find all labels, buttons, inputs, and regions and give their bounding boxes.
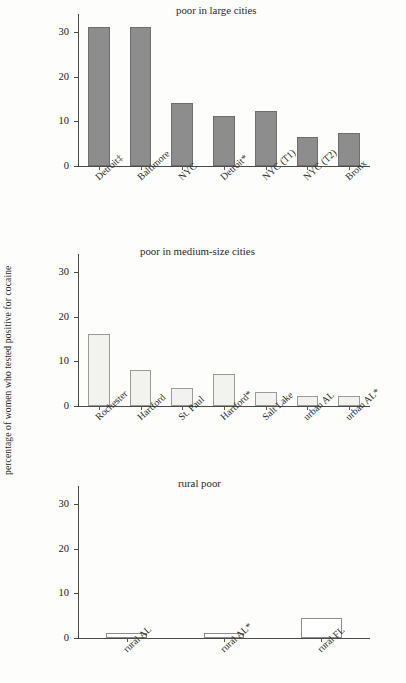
chart-panel-large-cities: poor in large cities 0102030Detroit‡Balt… — [0, 0, 406, 225]
bar-group-2 — [78, 254, 370, 406]
y-tick-label-20: 20 — [45, 312, 69, 323]
bar — [255, 111, 277, 166]
y-tick-label-30: 30 — [45, 267, 69, 278]
y-tick-0 — [74, 406, 78, 407]
bar-group-3 — [78, 486, 370, 638]
y-tick-label-20: 20 — [45, 544, 69, 555]
y-tick-30 — [74, 272, 78, 273]
y-tick-label-30: 30 — [45, 27, 69, 38]
y-tick-label-10: 10 — [45, 588, 69, 599]
y-tick-label-20: 20 — [45, 72, 69, 83]
y-tick-10 — [74, 361, 78, 362]
bar — [213, 116, 235, 166]
figure-canvas: percentage of women who tested positive … — [0, 0, 406, 683]
bar — [88, 334, 110, 406]
y-tick-30 — [74, 504, 78, 505]
plot-area-1: poor in large cities 0102030Detroit‡Balt… — [78, 14, 370, 166]
y-tick-label-0: 0 — [45, 401, 69, 412]
y-tick-20 — [74, 77, 78, 78]
y-tick-20 — [74, 317, 78, 318]
plot-area-3: rural poor 0102030rural ALrural AL*rural… — [78, 486, 370, 638]
y-tick-0 — [74, 166, 78, 167]
y-tick-label-10: 10 — [45, 356, 69, 367]
bar — [171, 103, 193, 166]
plot-area-2: poor in medium-size cities 0102030Roches… — [78, 254, 370, 406]
chart-panel-medium-cities: poor in medium-size cities 0102030Roches… — [0, 232, 406, 457]
bar-group-1 — [78, 14, 370, 166]
y-tick-label-0: 0 — [45, 161, 69, 172]
y-tick-label-30: 30 — [45, 499, 69, 510]
y-tick-20 — [74, 549, 78, 550]
y-tick-label-0: 0 — [45, 633, 69, 644]
bar — [88, 27, 110, 166]
chart-panel-rural-poor: rural poor 0102030rural ALrural AL*rural… — [0, 464, 406, 683]
y-tick-10 — [74, 121, 78, 122]
y-tick-0 — [74, 638, 78, 639]
y-tick-label-10: 10 — [45, 116, 69, 127]
y-tick-30 — [74, 32, 78, 33]
y-tick-10 — [74, 593, 78, 594]
bar — [130, 27, 152, 166]
